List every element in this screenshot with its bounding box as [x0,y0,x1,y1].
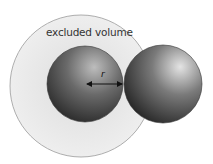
excluded-volume-label: excluded volume [46,26,133,38]
sphere-right [124,45,202,123]
diagram-graphic [0,0,213,164]
radius-label: r [101,69,105,79]
excluded-volume-diagram: excluded volume r [0,0,213,164]
